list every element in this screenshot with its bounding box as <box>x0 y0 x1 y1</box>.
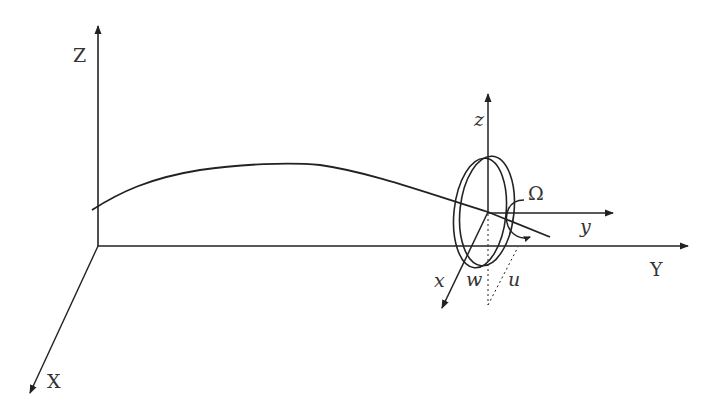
w-label: w <box>466 268 482 290</box>
dotted-projection-lines <box>488 214 518 305</box>
rotation-indicator: Ω <box>507 182 544 238</box>
local-z-label: z <box>473 108 485 130</box>
local-y-label: y <box>579 215 591 237</box>
global-z-label: Z <box>73 44 86 66</box>
local-x-label: x <box>434 269 445 291</box>
global-axes: Z Y X <box>30 26 688 393</box>
u-label: u <box>508 268 520 290</box>
global-y-label: Y <box>649 258 663 280</box>
rotor-diagram: Z Y X z y x w u Ω <box>0 0 701 411</box>
global-x-label: X <box>47 370 61 392</box>
omega-label: Ω <box>528 182 544 204</box>
disk <box>448 153 519 270</box>
local-x-axis <box>442 212 488 308</box>
global-x-axis <box>30 246 98 393</box>
